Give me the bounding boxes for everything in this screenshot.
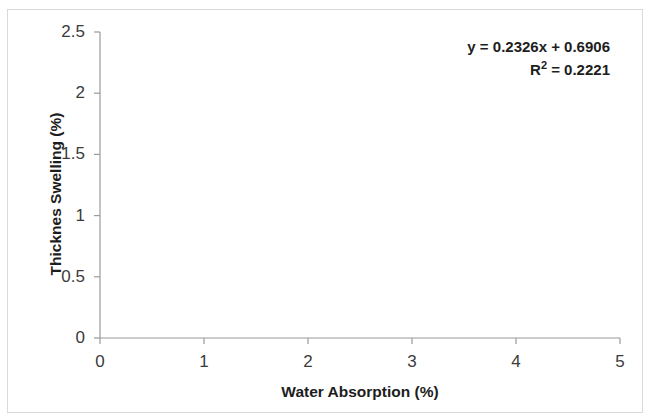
y-axis-tick-label: 0	[30, 328, 85, 348]
x-axis-tick-label: 3	[407, 352, 416, 372]
x-axis-tick-label: 5	[615, 352, 624, 372]
y-axis-title: Thicknes Swelling (%)	[47, 64, 65, 324]
regression-annotation: y = 0.2326x + 0.6906 R2 = 0.2221	[467, 36, 610, 81]
y-axis-tick-label: 2.5	[30, 22, 85, 42]
x-axis-title: Water Absorption (%)	[100, 383, 620, 401]
r-squared-prefix: R	[530, 61, 541, 78]
x-axis-tick-label: 4	[511, 352, 520, 372]
r-squared-value: = 0.2221	[547, 61, 610, 78]
chart-figure: 00.511.522.5 012345 Thicknes Swelling (%…	[0, 0, 651, 419]
x-axis-tick-label: 0	[95, 352, 104, 372]
regression-equation: y = 0.2326x + 0.6906	[467, 36, 610, 58]
x-axis-tick-label: 2	[303, 352, 312, 372]
x-axis-tick-label: 1	[199, 352, 208, 372]
r-squared-line: R2 = 0.2221	[467, 58, 610, 81]
